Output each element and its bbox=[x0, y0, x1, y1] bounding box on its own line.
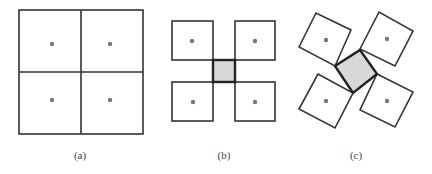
dot-icon bbox=[385, 37, 389, 41]
dot-icon bbox=[324, 99, 328, 103]
dot-icon bbox=[324, 38, 328, 42]
dot-icon bbox=[108, 98, 112, 102]
panel-a bbox=[19, 10, 143, 134]
dot-icon bbox=[191, 100, 195, 104]
dot-icon bbox=[190, 39, 194, 43]
dot-icon bbox=[385, 99, 389, 103]
panel-b-label: (b) bbox=[218, 149, 231, 161]
dot-icon bbox=[50, 98, 54, 102]
panel-a-label: (a) bbox=[74, 149, 86, 161]
dot-icon bbox=[253, 39, 257, 43]
dot-icon bbox=[108, 42, 112, 46]
dot-icon bbox=[253, 100, 257, 104]
diagram-canvas bbox=[0, 0, 432, 174]
dot-icon bbox=[50, 42, 54, 46]
panel-b-center-square bbox=[213, 60, 235, 82]
panel-c bbox=[299, 12, 413, 128]
panel-c-label: (c) bbox=[350, 149, 362, 161]
panel-b bbox=[172, 21, 275, 121]
